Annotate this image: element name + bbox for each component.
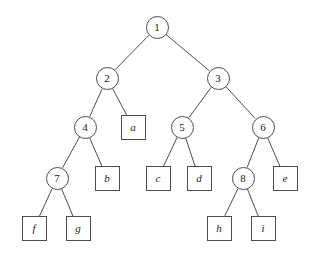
tree-edge [115,35,149,70]
internal-node-3: 3 [207,67,230,90]
internal-node-1: 1 [146,16,169,39]
tree-edge [247,189,258,217]
node-label: 6 [260,121,266,132]
leaf-node-c: c [146,166,171,191]
node-label: 7 [54,172,60,183]
internal-node-7: 7 [46,167,69,190]
leaf-node-g: g [66,216,91,241]
tree-edge [90,138,102,167]
node-label: a [130,121,136,132]
internal-node-6: 6 [252,116,275,139]
node-label: 8 [240,172,246,183]
leaf-node-e: e [273,166,298,191]
node-label: 5 [179,121,185,132]
node-label: b [104,172,110,183]
leaf-node-d: d [187,166,212,191]
leaf-node-h: h [207,216,232,241]
tree-edge [63,137,80,168]
tree-edge [163,137,177,166]
node-label: d [196,172,202,183]
leaf-node-i: i [251,216,276,241]
node-label: i [261,222,264,233]
tree-edge [224,188,238,216]
node-label: 4 [82,121,88,132]
node-label: h [216,222,222,233]
leaf-node-a: a [121,115,146,140]
leaf-node-b: b [95,166,120,191]
internal-node-8: 8 [232,167,255,190]
tree-edge [39,188,52,216]
tree-edge [90,88,103,116]
node-label: 2 [104,72,110,83]
tree-edge [247,138,259,168]
tree-edge [112,88,127,116]
tree-edge [189,87,211,117]
tree-edge [226,86,255,118]
node-label: c [156,172,161,183]
internal-node-5: 5 [171,116,194,139]
node-label: g [75,222,81,233]
node-label: 1 [154,21,160,32]
tree-edge [61,189,73,217]
internal-node-4: 4 [74,116,97,139]
tree-edge [268,138,280,167]
leaf-node-f: f [22,216,47,241]
node-label: 3 [215,72,221,83]
tree-edge [166,34,209,70]
node-label: f [32,222,35,233]
node-label: e [283,172,288,183]
tree-edge [186,138,195,166]
internal-node-2: 2 [96,67,119,90]
binary-tree-diagram: 1234a567bcd8efghi [0,0,317,257]
